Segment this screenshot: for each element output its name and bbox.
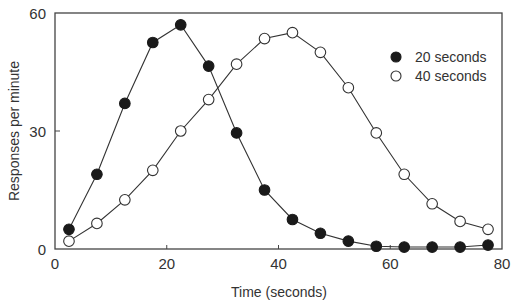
open-circle-marker xyxy=(92,218,103,229)
filled-circle-marker xyxy=(371,241,382,252)
filled-circle-marker xyxy=(259,185,270,196)
legend-open-circle-icon xyxy=(391,71,401,81)
open-circle-marker xyxy=(175,126,186,137)
y-tick-label: 30 xyxy=(29,123,46,140)
filled-circle-marker xyxy=(231,128,242,139)
filled-circle-marker xyxy=(483,240,494,251)
x-tick-label: 80 xyxy=(494,255,511,272)
open-circle-marker xyxy=(203,94,214,105)
open-circle-marker xyxy=(315,47,326,58)
x-tick-label: 0 xyxy=(51,255,59,272)
chart: 020406080 03060 20 seconds40 seconds Tim… xyxy=(0,0,519,303)
open-circle-marker xyxy=(483,224,494,235)
open-circle-marker xyxy=(371,128,382,139)
x-tick-label: 20 xyxy=(158,255,175,272)
legend-label: 20 seconds xyxy=(415,49,487,65)
open-circle-marker xyxy=(259,33,270,44)
open-circle-marker xyxy=(231,59,242,70)
x-axis-label: Time (seconds) xyxy=(231,284,327,300)
filled-circle-marker xyxy=(147,37,158,48)
y-tick-label: 0 xyxy=(38,241,46,258)
filled-circle-marker xyxy=(203,61,214,72)
x-tick-label: 40 xyxy=(270,255,287,272)
filled-circle-marker xyxy=(427,242,438,253)
filled-circle-marker xyxy=(455,242,466,253)
open-circle-marker xyxy=(120,195,131,206)
filled-circle-marker xyxy=(92,169,103,180)
filled-circle-marker xyxy=(120,98,131,109)
legend-label: 40 seconds xyxy=(415,68,487,84)
open-circle-marker xyxy=(455,216,466,227)
open-circle-marker xyxy=(343,82,354,93)
filled-circle-marker xyxy=(175,20,186,31)
filled-circle-marker xyxy=(315,228,326,239)
open-circle-marker xyxy=(427,198,438,209)
open-circle-marker xyxy=(147,165,158,176)
filled-circle-marker xyxy=(343,236,354,247)
filled-circle-marker xyxy=(399,242,410,253)
open-circle-marker xyxy=(64,236,75,247)
open-circle-marker xyxy=(399,169,410,180)
x-tick-label: 60 xyxy=(382,255,399,272)
filled-circle-marker xyxy=(287,214,298,225)
legend: 20 seconds40 seconds xyxy=(391,49,487,84)
filled-circle-marker xyxy=(64,224,75,235)
legend-filled-circle-icon xyxy=(391,52,401,62)
open-circle-marker xyxy=(287,27,298,38)
y-axis-label: Responses per minute xyxy=(6,61,22,201)
y-tick-label: 60 xyxy=(29,5,46,22)
